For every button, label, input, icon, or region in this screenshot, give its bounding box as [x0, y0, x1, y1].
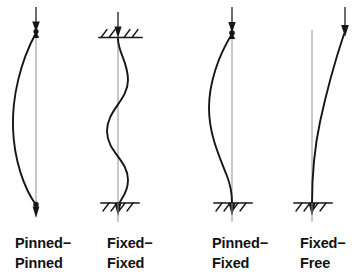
caption-fixed-fixed-line2: Fixed	[107, 255, 144, 271]
buckled-shape-curve-4	[312, 34, 344, 204]
caption-fixed-fixed-line1: Fixed−	[107, 235, 153, 251]
caption-group: Pinned− Pinned Fixed− Fixed Pinned− Fixe…	[15, 235, 346, 271]
caption-fixed-free-line1: Fixed−	[300, 235, 346, 251]
caption-pinned-pinned-line2: Pinned	[15, 255, 63, 271]
column-pinned-pinned	[13, 7, 40, 218]
column-pinned-fixed	[209, 7, 252, 222]
load-arrow-head-4	[341, 25, 349, 37]
caption-pinned-pinned-line1: Pinned−	[15, 235, 71, 251]
pin-support-bottom-1	[33, 207, 40, 219]
buckled-shape-curve-3	[209, 34, 232, 203]
figure-canvas: Pinned− Pinned Fixed− Fixed Pinned− Fixe…	[0, 0, 358, 278]
load-arrow-head-2	[114, 27, 121, 39]
caption-pinned-fixed-line2: Fixed	[212, 255, 249, 271]
caption-pinned-fixed-line1: Pinned−	[212, 235, 268, 251]
column-fixed-fixed	[99, 12, 142, 222]
buckled-shape-curve-1	[13, 33, 36, 205]
column-fixed-free	[294, 7, 349, 222]
pin-joint-bottom-1	[33, 202, 38, 207]
caption-fixed-free-line2: Free	[300, 255, 330, 271]
column-buckling-diagram: Pinned− Pinned Fixed− Fixed Pinned− Fixe…	[0, 0, 358, 278]
